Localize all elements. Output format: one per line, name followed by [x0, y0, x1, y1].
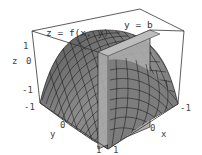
surface-label: z = f(x, y)	[46, 28, 109, 38]
y-tick-minus1: -1	[24, 103, 35, 112]
x-tick-0: 0	[150, 124, 155, 133]
x-tick-minus1: -1	[180, 104, 191, 113]
x-tick-1: 1	[113, 146, 118, 155]
surface-plot-svg	[0, 0, 202, 155]
plot-canvas: z = f(x, y) y = b z 1 0 -1 -1 0 y 1 1 0 …	[0, 0, 202, 155]
y-tick-1: 1	[96, 146, 101, 155]
y-tick-0: 0	[60, 121, 65, 130]
z-tick-0: 0	[26, 57, 31, 66]
y-axis-label: y	[50, 130, 55, 139]
z-axis-label: z	[12, 57, 17, 66]
plane-label: y = b	[124, 20, 153, 30]
z-tick-minus1: -1	[22, 86, 33, 95]
z-tick-1: 1	[23, 42, 28, 51]
x-axis-label: x	[161, 130, 166, 139]
